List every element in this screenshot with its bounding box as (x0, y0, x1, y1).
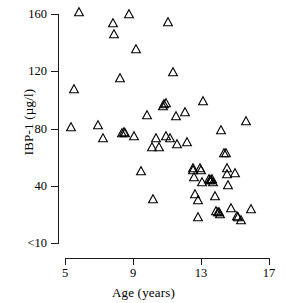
y-tick-label-160: 160 (0, 8, 47, 20)
y-tick-mark (51, 14, 58, 15)
x-tick-label-5: 5 (45, 267, 85, 280)
y-tick-label-lt10: <10 (0, 237, 47, 249)
x-tick-mark (65, 258, 66, 265)
x-tick-mark (133, 258, 134, 265)
y-tick-label-40: 40 (0, 180, 47, 192)
x-tick-label-13: 13 (181, 267, 221, 280)
x-tick-label-9: 9 (113, 267, 153, 280)
x-axis-label: Age (years) (0, 285, 287, 301)
x-axis-line (65, 258, 270, 259)
scatter-plot-figure: IBP-1 (µg/l) 160 120 80 40 <10 5 9 13 17… (0, 0, 287, 303)
y-tick-mark (51, 129, 58, 130)
x-tick-mark (201, 258, 202, 265)
y-tick-mark (51, 186, 58, 187)
x-tick-label-17: 17 (249, 267, 287, 280)
y-axis-line (58, 14, 59, 244)
y-tick-mark (51, 71, 58, 72)
y-tick-mark (51, 243, 58, 244)
y-tick-label-120: 120 (0, 65, 47, 77)
y-tick-label-80: 80 (0, 123, 47, 135)
x-tick-mark (269, 258, 270, 265)
